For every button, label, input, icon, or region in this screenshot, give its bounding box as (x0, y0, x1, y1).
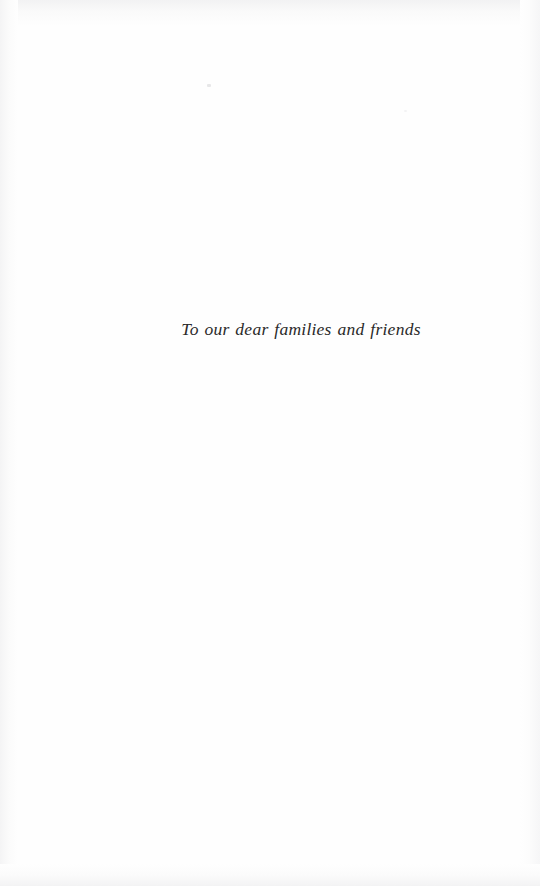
scan-speck-icon (207, 84, 211, 87)
scan-edge-top (0, 0, 540, 26)
dedication-text: To our dear families and friends (181, 318, 420, 340)
scan-speck-secondary-icon (404, 110, 407, 112)
scan-edge-left (0, 0, 18, 886)
dedication-page: To our dear families and friends (0, 0, 540, 886)
scan-edge-bottom (0, 864, 540, 886)
dedication-block: To our dear families and friends (0, 318, 540, 340)
scan-edge-right (520, 0, 540, 886)
